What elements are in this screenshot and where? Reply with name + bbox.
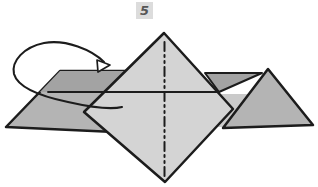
step-number-label: 5	[140, 4, 149, 17]
origami-diagram	[0, 0, 318, 187]
origami-step-figure: 5	[0, 0, 318, 187]
paper-model	[6, 33, 313, 182]
step-number-badge: 5	[136, 2, 153, 19]
